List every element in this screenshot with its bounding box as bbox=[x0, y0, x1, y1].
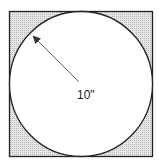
radius-label: 10" bbox=[77, 88, 95, 102]
inscribed-circle bbox=[10, 12, 153, 157]
diagram-canvas: 10" bbox=[0, 0, 159, 164]
